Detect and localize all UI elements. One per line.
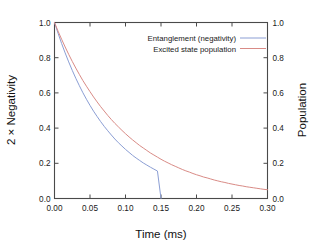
legend-label-0: Entanglement (negativity): [148, 34, 237, 43]
y-tick-label-left: 1.0: [39, 19, 51, 28]
y-tick-label-left: 0.2: [39, 159, 51, 168]
curve-series-0: [55, 23, 162, 199]
y-axis-right-ticks: 0.00.20.40.60.81.0: [264, 19, 285, 204]
y-tick-label-right: 0.4: [273, 124, 285, 133]
x-tick-label: 0.00: [47, 204, 63, 213]
x-tick-label: 0.05: [82, 204, 98, 213]
y-tick-label-right: 1.0: [273, 19, 285, 28]
chart-legend: Entanglement (negativity)Excited state p…: [148, 34, 266, 54]
x-tick-label: 0.30: [260, 204, 276, 213]
y-tick-label-left: 0.4: [39, 124, 51, 133]
x-axis-title: Time (ms): [135, 228, 186, 240]
entanglement-decay-chart: 0.000.050.100.150.200.250.30 0.00.20.40.…: [0, 0, 318, 243]
y-tick-label-right: 0.0: [273, 195, 285, 204]
y-tick-label-right: 0.2: [273, 159, 285, 168]
chart-figure: 0.000.050.100.150.200.250.30 0.00.20.40.…: [0, 0, 318, 243]
x-tick-label: 0.25: [224, 204, 240, 213]
y-axis-left-title: 2 × Negativity: [5, 75, 17, 145]
x-tick-label: 0.20: [189, 204, 205, 213]
x-tick-label: 0.15: [153, 204, 169, 213]
legend-label-1: Excited state population: [153, 45, 236, 54]
y-axis-left-ticks: 0.00.20.40.60.81.0: [39, 19, 58, 204]
y-tick-label-right: 0.8: [273, 54, 285, 63]
y-tick-label-left: 0.8: [39, 54, 51, 63]
x-tick-label: 0.10: [118, 204, 134, 213]
y-axis-right-title: Population: [296, 83, 308, 137]
y-tick-label-right: 0.6: [273, 89, 285, 98]
y-tick-label-left: 0.0: [39, 195, 51, 204]
y-tick-label-left: 0.6: [39, 89, 51, 98]
